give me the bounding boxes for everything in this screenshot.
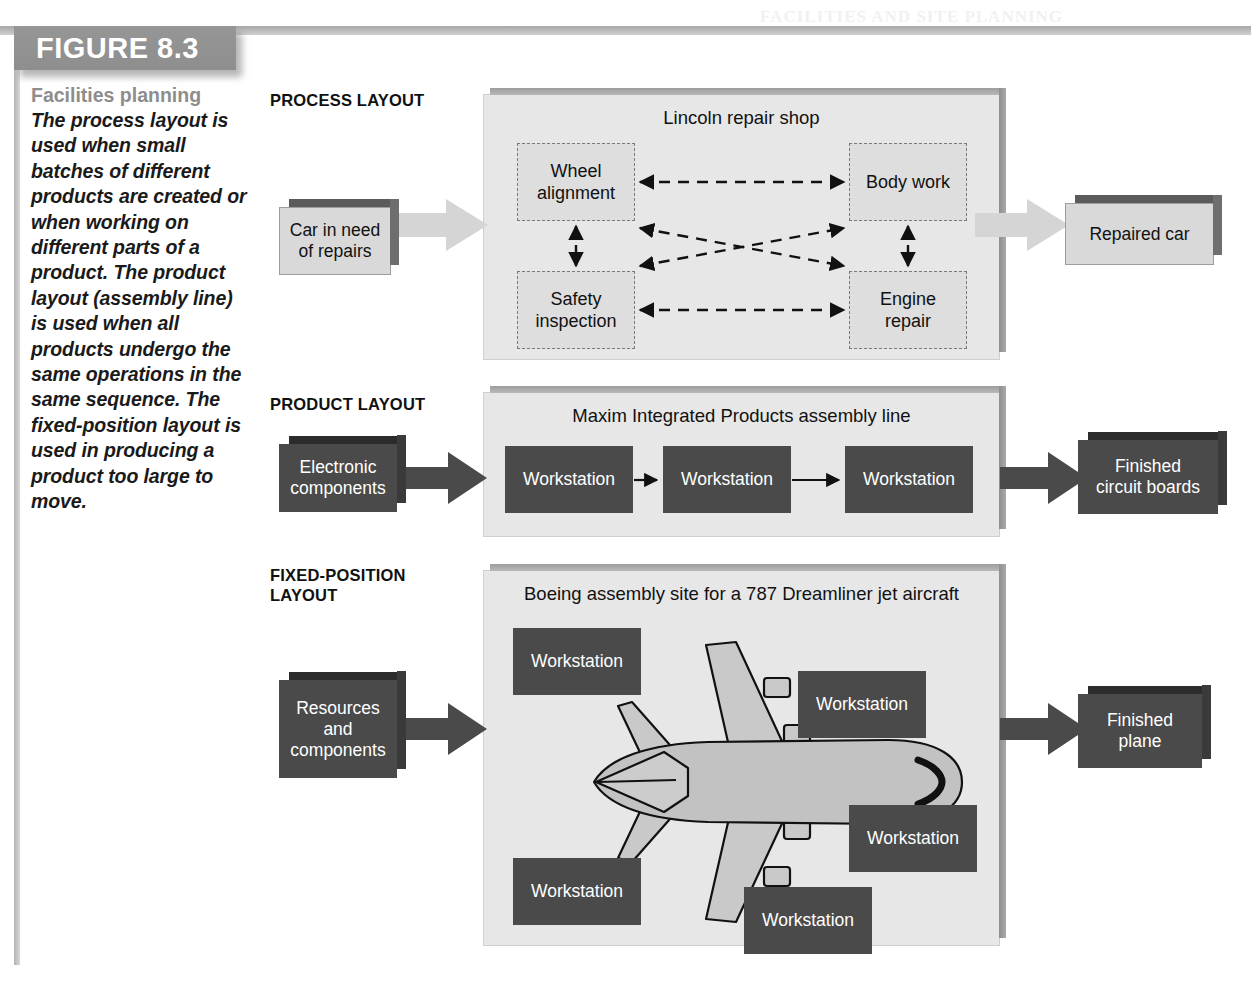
- section-label-process-layout: PROCESS LAYOUT: [270, 90, 424, 110]
- process-input-arrow: [394, 199, 490, 251]
- fixed-position-workstation-3: Workstation: [849, 805, 977, 872]
- process-panel-title: Lincoln repair shop: [484, 107, 999, 129]
- fixed-position-workstation-2: Workstation: [798, 671, 926, 738]
- process-box-safety-inspection: Safety inspection: [517, 271, 635, 349]
- product-workstation-1: Workstation: [505, 446, 633, 513]
- fixed-position-panel-title: Boeing assembly site for a 787 Dreamline…: [484, 583, 999, 605]
- process-output-arrow: [975, 199, 1071, 251]
- figure-page: FACILITIES AND SITE PLANNING FIGURE 8.3 …: [0, 0, 1251, 988]
- fixed-position-output-block: Finished plane: [1078, 694, 1202, 768]
- caption-body: The process layout is used when small ba…: [31, 108, 249, 515]
- section-label-fixed-position-layout: FIXED-POSITION LAYOUT: [270, 565, 406, 605]
- product-workstation-3: Workstation: [845, 446, 973, 513]
- process-input-block: Car in need of repairs: [279, 207, 391, 275]
- process-box-wheel-alignment: Wheel alignment: [517, 143, 635, 221]
- process-box-body-work: Body work: [849, 143, 967, 221]
- fixed-position-output-arrow: [1000, 703, 1088, 755]
- fixed-position-input-arrow: [400, 703, 488, 755]
- product-input-arrow: [400, 452, 488, 504]
- process-box-engine-repair: Engine repair: [849, 271, 967, 349]
- process-output-block: Repaired car: [1065, 203, 1214, 265]
- product-output-arrow: [1000, 452, 1088, 504]
- fixed-position-workstation-1: Workstation: [513, 628, 641, 695]
- figure-left-rule: [14, 35, 20, 965]
- figure-caption: Facilities planning The process layout i…: [31, 84, 249, 515]
- product-output-block: Finished circuit boards: [1078, 440, 1218, 514]
- fixed-position-workstation-4: Workstation: [513, 858, 641, 925]
- product-input-block: Electronic components: [279, 444, 397, 512]
- product-panel-title: Maxim Integrated Products assembly line: [484, 405, 999, 427]
- figure-number-tab: FIGURE 8.3: [14, 26, 236, 70]
- figure-number-label: FIGURE 8.3: [14, 26, 236, 70]
- section-label-product-layout: PRODUCT LAYOUT: [270, 394, 425, 414]
- product-workstation-2: Workstation: [663, 446, 791, 513]
- fixed-position-input-block: Resources and components: [279, 680, 397, 778]
- caption-title: Facilities planning: [31, 84, 249, 107]
- fixed-position-workstation-5: Workstation: [744, 887, 872, 954]
